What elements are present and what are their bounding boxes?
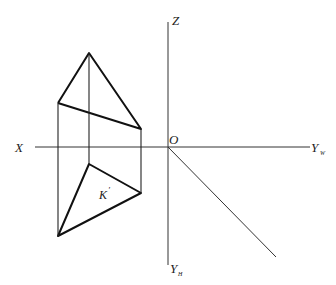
z-axis-label: Z: [172, 13, 180, 28]
point-k-mark: ′: [108, 185, 111, 195]
x-axis-label: X: [14, 140, 24, 155]
front-view: [58, 53, 141, 129]
yw-label-sub: W: [320, 150, 326, 156]
yh-label-sub: H: [177, 271, 183, 277]
point-k-label: K ′: [98, 185, 111, 202]
point-k-main: K: [98, 188, 108, 202]
projection-diagram: X Z O Y W Y H K ′: [0, 0, 336, 285]
yh-axis-label: Y H: [170, 261, 183, 277]
yw-axis-label: Y W: [311, 140, 326, 156]
front-view-outline: [58, 53, 141, 129]
origin-label: O: [169, 132, 179, 147]
yw-label-main: Y: [311, 140, 320, 155]
yh-diagonal-line: [168, 147, 276, 257]
